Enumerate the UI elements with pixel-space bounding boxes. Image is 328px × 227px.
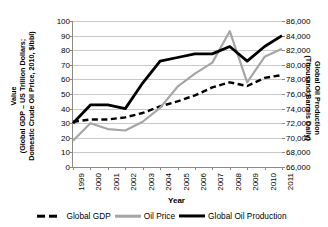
y-axis-right-tick-mark [282,79,285,80]
y-axis-left-tick-label: 90 [61,31,70,40]
chart-legend: Global GDP Oil Price Global Oil Producti… [0,208,328,224]
plot-area: 066,0001068,0002070,0003072,0004074,0005… [72,21,282,168]
y-axis-left-title: Value (Global GDP – US Trillion Dollars;… [0,10,46,182]
y-axis-right-tick-mark [282,50,285,51]
x-axis-tick-label: 2002 [129,173,138,191]
y-axis-left-tick-label: 30 [61,119,70,128]
y-axis-left-tick-label: 10 [61,148,70,157]
x-axis-tick-mark [160,167,161,170]
x-axis-tick-label: 2003 [147,173,156,191]
y-axis-right-tick-label: 72,000 [286,119,310,128]
y-axis-right-tick-mark [282,109,285,110]
legend-swatch-black-line-icon [179,212,205,221]
y-axis-right-tick-label: 86,000 [286,17,310,26]
x-axis-tick-label: 2006 [199,173,208,191]
series-line-oil-price [73,31,282,141]
y-axis-right-tick-mark [282,65,285,66]
x-axis-tick-mark [73,167,74,170]
x-axis-tick-label: 2001 [112,173,121,191]
y-axis-right-tick-label: 84,000 [286,31,310,40]
y-axis-right-tick-label: 68,000 [286,148,310,157]
y-axis-left-tick-label: 100 [57,17,70,26]
legend-label-global-gdp: Global GDP [63,211,114,221]
x-axis-tick-label: 2007 [216,173,225,191]
y-axis-right-tick-label: 76,000 [286,90,310,99]
y-axis-left-tick-label: 20 [61,133,70,142]
y-axis-right-tick-label: 66,000 [286,163,310,172]
legend-label-global-oil-production: Global Oil Production [205,211,290,221]
y-axis-right-tick-mark [282,123,285,124]
series-line-global-gdp [73,75,282,122]
legend-item-global-gdp: Global GDP [37,211,114,221]
x-axis-tick-mark [90,167,91,170]
legend-swatch-gray-line-icon [115,212,141,221]
y-axis-left-tick-label: 60 [61,75,70,84]
x-axis-tick-label: 2000 [94,173,103,191]
y-axis-left-tick-label: 80 [61,46,70,55]
y-axis-left-tick-label: 0 [66,163,70,172]
x-axis-tick-label: 2009 [251,173,260,191]
y-axis-right-tick-mark [282,94,285,95]
x-axis-tick-label: 2010 [269,173,278,191]
legend-item-global-oil-production: Global Oil Production [179,211,290,221]
x-axis-tick-mark [108,167,109,170]
series-line-global-oil-production [73,36,282,124]
legend-swatch-dashed-line-icon [37,212,63,221]
y-axis-left-title-line1: Value [9,87,18,106]
x-axis-tick-label: 2008 [234,173,243,191]
y-axis-left-tick-label: 50 [61,90,70,99]
x-axis-tick-mark [265,167,266,170]
y-axis-right-tick-label: 82,000 [286,46,310,55]
chart-container: Value (Global GDP – US Trillion Dollars;… [0,0,328,227]
y-axis-right-tick-label: 74,000 [286,104,310,113]
y-axis-left-tick-label: 70 [61,60,70,69]
y-axis-right-tick-label: 80,000 [286,60,310,69]
y-axis-right-title-line1: Global Oil Production [313,61,322,135]
x-axis-tick-mark [212,167,213,170]
y-axis-left-tick-label: 40 [61,104,70,113]
x-axis-tick-label: 2004 [164,173,173,191]
y-axis-left-title-line3: Domestic Crude Oil Price, 2010, $/bbl) [28,31,37,160]
y-axis-right-tick-mark [282,152,285,153]
x-axis-tick-mark [282,167,283,170]
x-axis-tick-mark [195,167,196,170]
x-axis-tick-mark [178,167,179,170]
y-axis-right-tick-label: 78,000 [286,75,310,84]
x-axis-tick-mark [143,167,144,170]
x-axis-tick-label: 2011 [286,173,295,190]
y-axis-left-title-line2: (Global GDP – US Trillion Dollars; [18,39,27,154]
y-axis-right-tick-mark [282,138,285,139]
series-layer [73,21,282,167]
legend-item-oil-price: Oil Price [115,211,179,221]
x-axis-tick-label: 2005 [182,173,191,191]
x-axis-tick-mark [247,167,248,170]
x-axis-tick-label: 1999 [77,173,86,191]
x-axis-tick-mark [230,167,231,170]
y-axis-right-tick-mark [282,21,285,22]
legend-label-oil-price: Oil Price [141,211,179,221]
x-axis-tick-mark [125,167,126,170]
x-axis-title: Year [72,196,281,205]
y-axis-right-tick-label: 70,000 [286,133,310,142]
